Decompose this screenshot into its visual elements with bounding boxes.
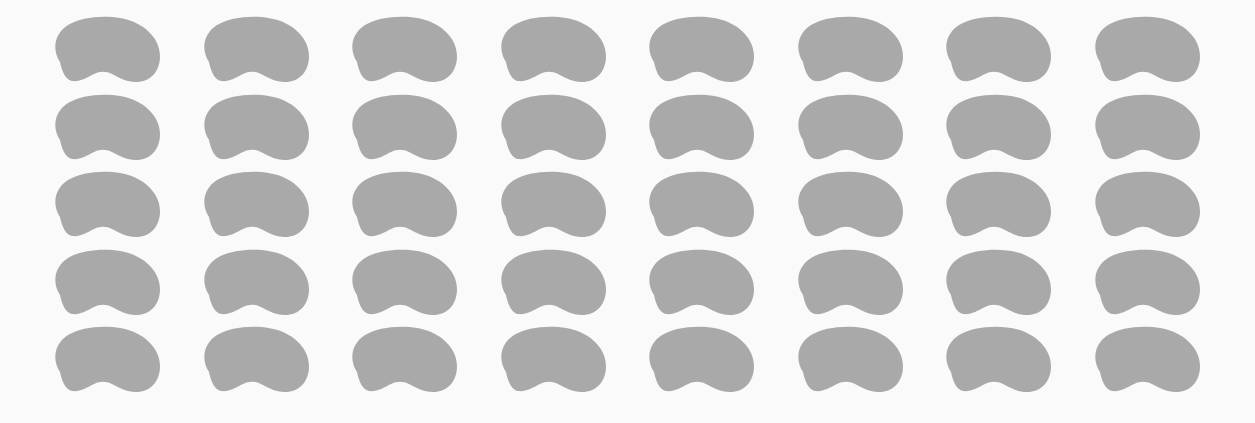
bean-icon xyxy=(1090,94,1202,162)
bean-icon xyxy=(1090,171,1202,239)
bean-icon xyxy=(50,94,162,162)
bean-grid-canvas xyxy=(0,0,1255,423)
bean-icon xyxy=(199,326,311,394)
bean-icon xyxy=(50,249,162,317)
bean-icon xyxy=(496,171,608,239)
bean-icon xyxy=(941,326,1053,394)
bean-icon xyxy=(496,16,608,84)
bean-icon xyxy=(793,16,905,84)
bean-icon xyxy=(644,16,756,84)
bean-icon xyxy=(199,94,311,162)
bean-icon xyxy=(50,16,162,84)
bean-icon xyxy=(496,249,608,317)
bean-icon xyxy=(347,94,459,162)
bean-icon xyxy=(941,171,1053,239)
bean-icon xyxy=(941,249,1053,317)
bean-icon xyxy=(644,249,756,317)
bean-icon xyxy=(1090,249,1202,317)
bean-icon xyxy=(50,326,162,394)
bean-icon xyxy=(793,171,905,239)
bean-icon xyxy=(199,171,311,239)
bean-icon xyxy=(199,249,311,317)
bean-icon xyxy=(941,16,1053,84)
bean-icon xyxy=(644,94,756,162)
bean-icon xyxy=(199,16,311,84)
bean-icon xyxy=(50,171,162,239)
bean-icon xyxy=(793,326,905,394)
bean-icon xyxy=(347,171,459,239)
bean-icon xyxy=(793,94,905,162)
bean-icon xyxy=(496,94,608,162)
bean-icon xyxy=(644,326,756,394)
bean-icon xyxy=(1090,16,1202,84)
bean-icon xyxy=(347,326,459,394)
bean-icon xyxy=(793,249,905,317)
bean-icon xyxy=(1090,326,1202,394)
bean-icon xyxy=(496,326,608,394)
bean-icon xyxy=(347,16,459,84)
bean-grid xyxy=(50,16,1202,394)
bean-icon xyxy=(941,94,1053,162)
bean-icon xyxy=(347,249,459,317)
bean-icon xyxy=(644,171,756,239)
